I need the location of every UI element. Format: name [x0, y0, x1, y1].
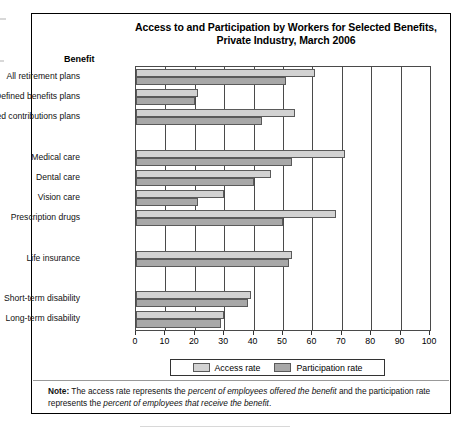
x-tick: [194, 331, 195, 335]
gridline: [401, 67, 402, 330]
x-tick-label-30: 30: [218, 336, 228, 346]
bar-participation-7: [136, 259, 289, 267]
gridline: [342, 67, 343, 330]
legend-label-access: Access rate: [215, 363, 261, 373]
category-label-9: Long-term disability: [5, 313, 80, 323]
axis-header-benefit: Benefit: [64, 54, 95, 64]
bar-access-3: [136, 150, 345, 158]
x-tick-label-100: 100: [422, 336, 437, 346]
bar-access-5: [136, 190, 224, 198]
chart-title: Access to and Participation by Workers f…: [127, 21, 445, 47]
x-tick: [135, 331, 136, 335]
category-label-6: Prescription drugs: [11, 212, 80, 222]
x-tick: [429, 331, 430, 335]
bar-participation-8: [136, 299, 248, 307]
x-tick-label-70: 70: [336, 336, 346, 346]
category-label-0: All retirement plans: [6, 71, 80, 81]
category-label-4: Dental care: [36, 172, 80, 182]
category-label-7: Life insurance: [26, 253, 80, 263]
page-edge-mark: [0, 18, 6, 20]
bar-access-2: [136, 109, 295, 117]
gridline: [371, 67, 372, 330]
x-tick: [341, 331, 342, 335]
x-tick-label-60: 60: [306, 336, 316, 346]
chart-figure: Access to and Participation by Workers f…: [31, 13, 451, 414]
x-tick: [400, 331, 401, 335]
x-tick-label-80: 80: [365, 336, 375, 346]
x-tick-label-90: 90: [395, 336, 405, 346]
bar-access-4: [136, 170, 271, 178]
x-tick: [311, 331, 312, 335]
category-label-8: Short-term disability: [4, 293, 80, 303]
bar-access-0: [136, 69, 315, 77]
bar-participation-4: [136, 178, 254, 186]
gridline: [283, 67, 284, 330]
screenshot-root: Access to and Participation by Workers f…: [0, 0, 469, 429]
x-tick: [253, 331, 254, 335]
chart-title-line1: Access to and Participation by Workers f…: [127, 21, 445, 34]
note-divider: [33, 380, 449, 381]
gridline: [254, 67, 255, 330]
category-label-5: Vision care: [38, 192, 80, 202]
legend-swatch-participation-icon: [274, 363, 291, 372]
x-tick: [282, 331, 283, 335]
legend-swatch-access-icon: [193, 363, 210, 372]
bar-access-1: [136, 89, 198, 97]
chart-title-line2: Private Industry, March 2006: [127, 34, 445, 47]
x-tick-label-40: 40: [248, 336, 258, 346]
bar-participation-0: [136, 77, 286, 85]
page-edge-mark: [140, 426, 290, 427]
plot-area: [135, 66, 431, 331]
bar-participation-2: [136, 117, 262, 125]
x-tick: [370, 331, 371, 335]
x-tick-label-20: 20: [189, 336, 199, 346]
category-label-1: Defined benefits plans: [0, 91, 80, 101]
x-axis: 0102030405060708090100: [135, 331, 431, 353]
x-tick-label-0: 0: [133, 336, 138, 346]
legend-item-participation: Participation rate: [274, 363, 362, 373]
chart-legend: Access rate Participation rate: [170, 359, 385, 376]
bar-participation-5: [136, 198, 198, 206]
legend-item-access: Access rate: [193, 363, 261, 373]
x-tick: [164, 331, 165, 335]
legend-label-participation: Participation rate: [296, 363, 362, 373]
bar-participation-1: [136, 97, 195, 105]
bar-access-9: [136, 311, 224, 319]
bar-participation-6: [136, 218, 283, 226]
bar-access-8: [136, 291, 251, 299]
gridline: [312, 67, 313, 330]
bar-participation-3: [136, 158, 292, 166]
chart-note: Note: The access rate represents the per…: [48, 386, 438, 409]
x-tick: [223, 331, 224, 335]
x-tick-label-50: 50: [277, 336, 287, 346]
page-edge-mark: [0, 60, 4, 62]
x-tick-label-10: 10: [159, 336, 169, 346]
bar-participation-9: [136, 319, 221, 327]
category-label-2: Defined contributions plans: [0, 111, 80, 121]
bar-access-7: [136, 251, 292, 259]
category-label-3: Medical care: [31, 152, 80, 162]
bar-access-6: [136, 210, 336, 218]
